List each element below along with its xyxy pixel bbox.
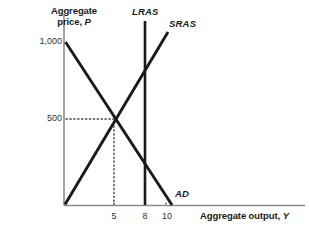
x-tick-label-8: 8 (138, 211, 152, 221)
y-axis-title-line2: price, (57, 16, 84, 27)
y-tick-label-500: 500 (26, 113, 62, 123)
y-axis-title-variable: P (85, 16, 91, 27)
x-tick-label-5: 5 (107, 211, 121, 221)
x-axis-title-text: Aggregate output, (200, 210, 283, 221)
x-axis-title-variable: Y (283, 210, 289, 221)
ad-curve-label: AD (175, 189, 189, 200)
lras-curve-label: LRAS (132, 7, 159, 18)
ad-curve (66, 42, 173, 205)
y-tick-label-1000: 1,000 (26, 36, 62, 46)
sras-curve-label: SRAS (169, 19, 196, 30)
x-axis-title: Aggregate output, Y (200, 211, 289, 222)
y-axis-title-line1: Aggregate (51, 5, 97, 16)
y-axis-title: Aggregateprice, P (38, 6, 110, 28)
x-tick-label-10: 10 (158, 211, 176, 221)
sras-curve (65, 32, 168, 205)
aggregate-supply-demand-chart: Aggregateprice, P Aggregate output, Y 1,… (0, 0, 309, 234)
